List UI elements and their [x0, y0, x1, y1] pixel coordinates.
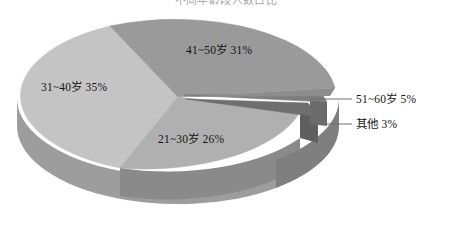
callout-label-51-60: 51~60岁 5% — [356, 93, 416, 106]
callout-label-other: 其他 3% — [356, 118, 397, 131]
pie-chart: 不同年龄段人数占比 — [0, 0, 452, 232]
slice-label-31-40: 31~40岁 35% — [41, 81, 107, 94]
slice-label-41-50: 41~50岁 31% — [186, 44, 252, 57]
pie-chart-graphic — [0, 0, 452, 232]
slice-label-21-30: 21~30岁 26% — [158, 133, 224, 146]
